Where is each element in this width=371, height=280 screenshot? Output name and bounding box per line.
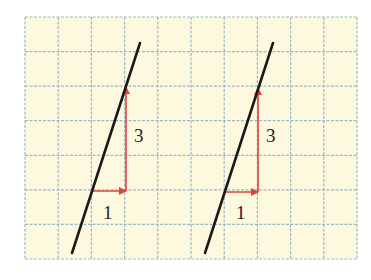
slope-diagram: 1313 [0, 0, 371, 280]
rise-label: 3 [266, 125, 276, 146]
run-label: 1 [103, 202, 113, 223]
run-label: 1 [236, 202, 246, 223]
rise-label: 3 [134, 125, 144, 146]
